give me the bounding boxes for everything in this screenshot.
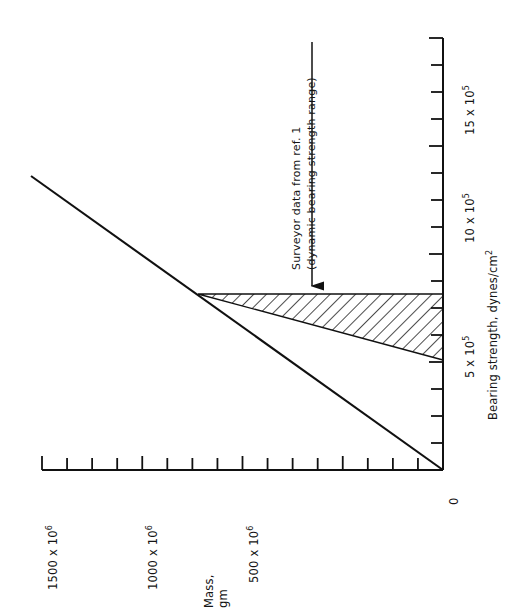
strength-tick-label-15: 15 x 105 [462, 85, 477, 135]
mass-axis-title-line2: gm [217, 589, 231, 608]
strength-tick-10-exponent: 5 [462, 193, 471, 198]
mass-tick-500-exponent: 6 [246, 525, 255, 530]
mass-tick-label-1000: 1000 x 106 [145, 525, 160, 590]
strength-tick-15-exponent: 5 [462, 85, 471, 90]
strength-axis-title-exponent: 2 [485, 250, 494, 255]
chart-svg [0, 0, 522, 613]
strength-tick-15-mantissa: 15 x 10 [463, 90, 477, 135]
mass-tick-1500-mantissa: 1500 x 10 [46, 530, 60, 590]
annotation-text-line1: Surveyor data from ref. 1 [290, 127, 305, 271]
strength-axis-title: Bearing strength, dynes/cm2 [485, 250, 500, 420]
mass-axis-title-line1: Mass, [203, 574, 217, 608]
mass-tick-500-mantissa: 500 x 10 [247, 531, 261, 583]
strength-tick-10-mantissa: 10 x 10 [463, 198, 477, 243]
strength-tick-5-mantissa: 5 x 10 [463, 341, 477, 378]
mass-axis-ticks [42, 456, 418, 470]
mass-tick-label-1500: 1500 x 106 [45, 525, 60, 590]
strength-axis-ticks [429, 38, 443, 443]
strength-axis-title-main: Bearing strength, dynes/cm [486, 255, 500, 420]
mass-tick-1000-exponent: 6 [145, 525, 154, 530]
mass-tick-1000-mantissa: 1000 x 10 [146, 530, 160, 590]
annotation-text-line2: (dynamic bearing strength range) [305, 77, 320, 270]
figure-canvas: 1500 x 106 1000 x 106 500 x 106 0 Mass, … [0, 0, 522, 613]
strength-tick-5-exponent: 5 [462, 335, 471, 340]
origin-tick-label-zero: 0 [448, 497, 462, 505]
surveyor-range-hatch [198, 294, 443, 360]
strength-tick-label-5: 5 x 105 [462, 335, 477, 378]
strength-tick-label-10: 10 x 105 [462, 193, 477, 243]
bearing-strength-axis [429, 38, 443, 470]
mass-tick-label-500: 500 x 106 [246, 525, 261, 583]
mass-axis [42, 456, 443, 470]
mass-tick-1500-exponent: 6 [45, 525, 54, 530]
